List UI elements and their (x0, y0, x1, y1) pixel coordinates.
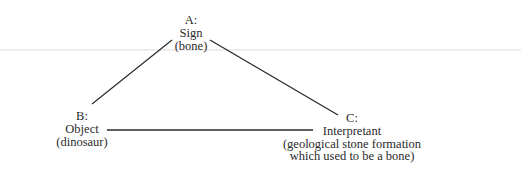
node-a-sign: A: Sign (bone) (175, 14, 208, 52)
node-c-example-line-2: which used to be a bone) (283, 150, 421, 163)
node-a-example: (bone) (175, 40, 208, 53)
node-c-interpretant: C: Interpretant (geological stone format… (283, 112, 421, 163)
node-b-example: (dinosaur) (56, 136, 107, 149)
node-b-object: B: Object (dinosaur) (56, 110, 107, 148)
node-a-role: Sign (175, 27, 208, 40)
edge-a-c (210, 40, 338, 115)
node-c-role: Interpretant (283, 125, 421, 138)
node-b-role: Object (56, 123, 107, 136)
node-a-label: A: (175, 14, 208, 27)
edge-a-b (92, 40, 172, 104)
node-c-label: C: (283, 112, 421, 125)
node-b-label: B: (56, 110, 107, 123)
